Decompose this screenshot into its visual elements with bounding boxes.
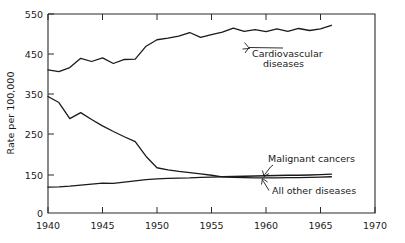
y-tick-label-350: 350 bbox=[25, 89, 43, 100]
y-tick-labels: 550 450 350 250 150 0 bbox=[25, 9, 43, 219]
x-tick-label-1950: 1950 bbox=[145, 220, 169, 231]
x-tick-label-1945: 1945 bbox=[90, 220, 114, 231]
y-tick-label-550: 550 bbox=[25, 9, 43, 20]
cardiovascular-annotation-line1: Cardiovascular bbox=[252, 48, 323, 59]
cardiovascular-annotation-line2: diseases bbox=[263, 58, 304, 69]
x-tick-label-1970: 1970 bbox=[363, 220, 387, 231]
y-tick-label-450: 450 bbox=[25, 49, 43, 60]
x-tick-label-1965: 1965 bbox=[308, 220, 332, 231]
line-chart-svg: 550 450 350 250 150 0 1940 1945 1950 195… bbox=[0, 0, 405, 243]
chart-figure: 550 450 350 250 150 0 1940 1945 1950 195… bbox=[0, 0, 405, 243]
x-tick-label-1955: 1955 bbox=[199, 220, 223, 231]
x-tick-labels: 1940 1945 1950 1955 1960 1965 1970 bbox=[36, 220, 387, 231]
all-other-diseases-annotation-label: All other diseases bbox=[272, 185, 356, 196]
y-axis-title: Rate per 100,000 bbox=[5, 72, 16, 155]
x-tick-label-1940: 1940 bbox=[36, 220, 60, 231]
series-line-all-other-diseases bbox=[48, 97, 331, 178]
y-tick-label-0: 0 bbox=[37, 208, 43, 219]
y-tick-marks bbox=[48, 14, 54, 175]
y-tick-label-150: 150 bbox=[25, 170, 43, 181]
x-tick-label-1960: 1960 bbox=[254, 220, 278, 231]
malignant-cancers-annotation-label: Malignant cancers bbox=[268, 153, 355, 164]
all-other-diseases-leader-line bbox=[262, 180, 269, 191]
y-tick-label-250: 250 bbox=[25, 129, 43, 140]
annotation-texts: Cardiovascular diseases Malignant cancer… bbox=[252, 48, 356, 197]
